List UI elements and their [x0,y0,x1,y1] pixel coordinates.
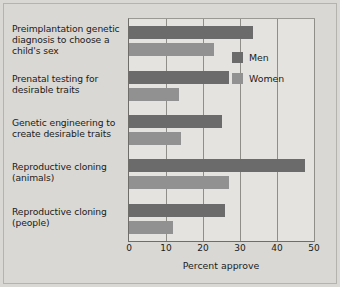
bar-men-3 [129,115,222,128]
chart-figure: Preimplantation geneticdiagnosis to choo… [0,0,340,287]
category-label-line: Reproductive cloning [12,161,124,172]
category-label-line: (animals) [12,172,124,183]
bar-women-5 [129,221,173,234]
x-tick-10: 10 [160,243,171,253]
category-label-line: desirable traits [12,84,124,95]
bar-women-2 [129,88,179,101]
x-tick-50: 50 [308,243,319,253]
x-tick-40: 40 [271,243,282,253]
category-axis-labels: Preimplantation geneticdiagnosis to choo… [12,18,124,240]
chart-legend: MenWomen [232,49,302,91]
x-tick-30: 30 [234,243,245,253]
category-label-4: Reproductive cloning(animals) [12,161,124,183]
bar-women-4 [129,176,229,189]
category-label-line: Genetic engineering to [12,117,124,128]
bar-men-1 [129,26,253,39]
legend-label: Women [249,73,284,84]
legend-item-men: Men [232,49,302,66]
category-label-line: Reproductive cloning [12,206,124,217]
x-tick-0: 0 [126,243,132,253]
x-tick-20: 20 [197,243,208,253]
category-label-line: child's sex [12,45,124,56]
legend-label: Men [249,52,269,63]
legend-swatch-women-icon [232,73,243,84]
category-label-line: Prenatal testing for [12,73,124,84]
bar-women-1 [129,43,214,56]
gridline-50 [314,19,315,241]
category-label-3: Genetic engineering tocreate desirable t… [12,117,124,139]
bar-women-3 [129,132,181,145]
x-axis-tick-labels: 01020304050 [128,243,314,255]
category-label-5: Reproductive cloning(people) [12,206,124,228]
category-label-line: diagnosis to choose a [12,34,124,45]
category-label-line: create desirable traits [12,128,124,139]
category-label-line: Preimplantation genetic [12,23,124,34]
category-label-2: Prenatal testing fordesirable traits [12,73,124,95]
bar-men-2 [129,71,229,84]
category-label-1: Preimplantation geneticdiagnosis to choo… [12,23,124,56]
bar-men-4 [129,159,305,172]
bar-men-5 [129,204,225,217]
category-label-line: (people) [12,217,124,228]
x-axis-title: Percent approve [128,260,314,271]
legend-item-women: Women [232,70,302,87]
legend-swatch-men-icon [232,52,243,63]
